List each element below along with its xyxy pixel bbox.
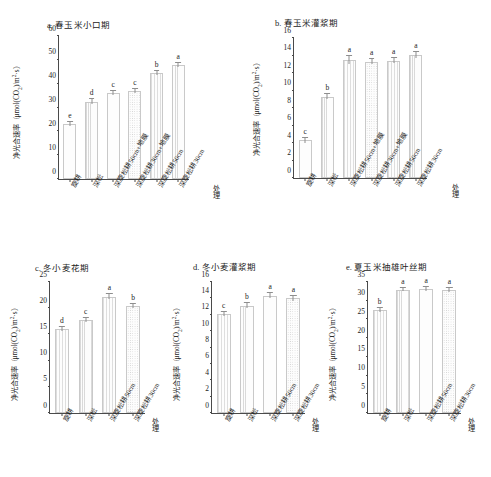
panel-c-y-axis-title: 净光合速率（μmol(CO2)/m2·s） (9, 298, 21, 408)
panel-d-x-axis-title: 处理 (310, 418, 320, 432)
panel-b-x-axis-title: 处理 (450, 184, 460, 198)
panel-c-ytick-label: 15 (40, 321, 48, 330)
panel-d-ytick-label: 10 (202, 318, 210, 327)
significance-label: c (133, 78, 136, 87)
error-bar (379, 308, 380, 312)
panel-e: e. 夏玉米抽雄叶丝期 净光合速率（μmol(CO2)/m2·s） 051015… (320, 255, 491, 477)
error-bar-cap (175, 62, 181, 63)
significance-label: c (84, 307, 87, 316)
panel-e-ytick-label: 5 (361, 381, 365, 390)
significance-label: c (112, 80, 115, 89)
error-bar (134, 89, 135, 93)
bar-group: c (212, 282, 235, 413)
error-bar-cap (59, 326, 65, 327)
panel-b-y-axis-title: 净光合速率（μmol(CO2)/m2·s） (251, 53, 263, 163)
panel-d-ytick-label: 12 (202, 302, 210, 311)
panel-a-ytick-label: 10 (49, 142, 57, 151)
bar[interactable] (321, 97, 334, 178)
panel-e-ytick-label: 15 (358, 344, 366, 353)
error-bar (393, 58, 394, 63)
panel-c-ytick-label: 10 (40, 348, 48, 357)
error-bar (270, 293, 271, 298)
error-bar-cap (369, 58, 375, 59)
panel-c: c. 冬小麦花期 净光合速率（μmol(CO2)/m2·s） 051015202… (0, 255, 170, 477)
error-bar (402, 288, 403, 292)
panel-b-ytick-label: 0 (287, 165, 291, 174)
bar-group: a (415, 282, 438, 413)
bar[interactable] (55, 329, 69, 413)
bar[interactable] (102, 297, 116, 413)
panel-a-ytick-label: 40 (49, 71, 57, 80)
error-bar (246, 303, 247, 308)
bar[interactable] (419, 289, 433, 413)
error-bar-cap (106, 293, 112, 294)
bar-group: c (294, 38, 316, 178)
panel-b-ytick-label: 6 (287, 113, 291, 122)
bar-group: b (235, 282, 258, 413)
bar-group: a (391, 282, 414, 413)
figure-root: a. 春玉米小口期 净光合速率（μmol(CO2)/m2·s） 01020304… (0, 0, 491, 477)
error-bar (109, 294, 110, 299)
bar[interactable] (263, 296, 277, 413)
significance-label: a (414, 41, 417, 50)
panel-c-ytick-label: 25 (40, 269, 48, 278)
error-bar (305, 138, 306, 142)
panel-b-ytick-label: 14 (284, 43, 292, 52)
panel-c-x-axis-title: 处理 (150, 418, 160, 432)
panel-a-ytick-label: 50 (49, 47, 57, 56)
error-bar-cap (132, 88, 138, 89)
bar-group: a (259, 282, 282, 413)
error-bar (223, 312, 224, 316)
error-bar (85, 318, 86, 322)
error-bar-cap (347, 55, 353, 56)
error-bar (371, 59, 372, 64)
bar[interactable] (79, 320, 93, 413)
error-bar (426, 287, 427, 291)
panel-a-x-axis-title: 处理 (211, 185, 221, 199)
bar-group: d (50, 282, 74, 413)
error-bar (133, 304, 134, 308)
panel-b-ytick-label: 16 (284, 25, 292, 34)
error-bar-cap (324, 93, 330, 94)
significance-label: b (325, 83, 329, 92)
bar[interactable] (396, 290, 410, 414)
significance-label: a (392, 47, 395, 56)
error-bar-cap (413, 51, 419, 52)
bar[interactable] (85, 102, 98, 179)
bar[interactable] (107, 93, 120, 179)
significance-label: a (292, 285, 295, 294)
significance-label: c (303, 127, 306, 136)
error-bar-cap (154, 70, 160, 71)
significance-label: a (448, 277, 451, 286)
panel-e-ytick-label: 25 (358, 306, 366, 315)
bar-group: d (81, 36, 103, 179)
panel-d-ytick-label: 6 (205, 351, 209, 360)
significance-label: a (268, 282, 271, 291)
bar[interactable] (373, 310, 387, 413)
panel-a-ytick-label: 0 (52, 166, 56, 175)
panel-d-ytick-label: 16 (202, 269, 210, 278)
significance-label: b (245, 292, 249, 301)
error-bar-cap (244, 302, 250, 303)
bar-group: c (102, 36, 124, 179)
bar-group: a (98, 282, 122, 413)
error-bar (293, 296, 294, 301)
error-bar (156, 71, 157, 75)
significance-label: a (424, 276, 427, 285)
panel-e-ytick-label: 35 (358, 269, 366, 278)
bar[interactable] (217, 314, 231, 413)
significance-label: a (401, 277, 404, 286)
bar[interactable] (240, 306, 254, 413)
bar[interactable] (343, 60, 356, 178)
panel-e-x-axis-title: 处理 (466, 418, 476, 432)
panel-e-ytick-label: 20 (358, 325, 366, 334)
error-bar-cap (290, 295, 296, 296)
significance-label: d (90, 88, 94, 97)
bar-group: e (59, 36, 81, 179)
panel-d-ytick-label: 8 (205, 335, 209, 344)
panel-b-ytick-label: 4 (287, 130, 291, 139)
error-bar-cap (400, 287, 406, 288)
panel-a-ytick-label: 20 (49, 118, 57, 127)
error-bar-cap (267, 292, 273, 293)
error-bar-cap (110, 90, 116, 91)
